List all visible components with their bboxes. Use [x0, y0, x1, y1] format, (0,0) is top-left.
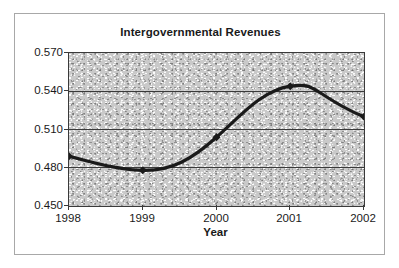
x-tick-label: 1999 [119, 213, 165, 225]
x-tick-label: 2001 [266, 213, 312, 225]
x-tick-label: 2000 [193, 213, 239, 225]
chart-frame: Intergovernmental Revenues 0.570 0.540 0… [14, 13, 385, 255]
x-tick-label: 1998 [45, 213, 91, 225]
x-tick-label: 2002 [340, 213, 385, 225]
x-axis-title: Year [68, 226, 363, 238]
x-axis-tick-labels: 1998 1999 2000 2001 2002 [15, 14, 385, 255]
